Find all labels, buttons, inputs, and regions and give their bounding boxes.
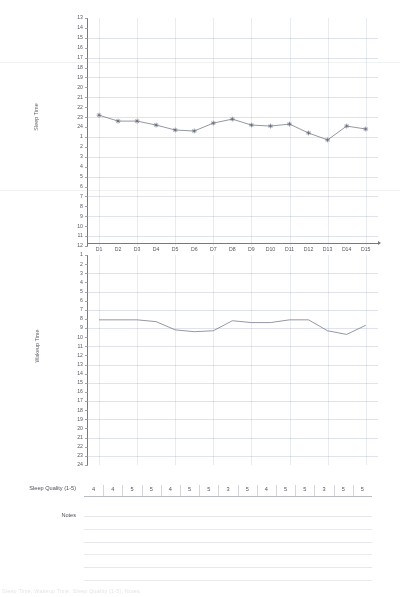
y-tick-mark — [85, 328, 88, 329]
sleep-quality-value[interactable]: 3 — [218, 487, 237, 493]
cell-separator — [180, 485, 181, 496]
sleep-quality-value[interactable]: 5 — [295, 487, 314, 493]
y-tick-mark — [85, 419, 88, 420]
sleep-quality-value[interactable]: 5 — [353, 487, 372, 493]
y-tick-label: 16 — [63, 389, 83, 394]
sleep-quality-value[interactable]: 5 — [276, 487, 295, 493]
y-tick-mark — [85, 456, 88, 457]
sleep-quality-value[interactable]: 3 — [314, 487, 333, 493]
sleep-quality-label: Sleep Quality (1-5) — [8, 485, 76, 491]
y-tick-label: 8 — [63, 316, 83, 321]
y-tick-mark — [85, 365, 88, 366]
note-line[interactable] — [84, 529, 372, 530]
cell-separator — [257, 485, 258, 496]
y-tick-label: 19 — [63, 417, 83, 422]
notes-label: Notes — [8, 512, 76, 518]
y-tick-mark — [85, 410, 88, 411]
cell-separator — [199, 485, 200, 496]
cell-separator — [218, 485, 219, 496]
y-tick-mark — [85, 282, 88, 283]
y-tick-mark — [85, 310, 88, 311]
cell-separator — [122, 485, 123, 496]
y-tick-label: 3 — [63, 271, 83, 276]
y-tick-label: 5 — [63, 289, 83, 294]
sleep-quality-value[interactable]: 5 — [199, 487, 218, 493]
sleep-quality-value[interactable]: 4 — [161, 487, 180, 493]
cell-separator — [276, 485, 277, 496]
cell-separator — [142, 485, 143, 496]
y-tick-label: 12 — [63, 353, 83, 358]
cell-separator — [295, 485, 296, 496]
y-tick-label: 2 — [63, 262, 83, 267]
note-line[interactable] — [84, 567, 372, 568]
y-tick-mark — [85, 355, 88, 356]
y-tick-label: 11 — [63, 344, 83, 349]
y-tick-label: 14 — [63, 371, 83, 376]
cell-separator — [334, 485, 335, 496]
note-line[interactable] — [84, 542, 372, 543]
y-tick-label: 21 — [63, 435, 83, 440]
sleep-quality-value[interactable]: 4 — [103, 487, 122, 493]
y-tick-label: 4 — [63, 280, 83, 285]
y-tick-label: 18 — [63, 408, 83, 413]
wakeup-time-plot-area — [87, 255, 378, 465]
sleep-quality-value[interactable]: 5 — [122, 487, 141, 493]
sleep-quality-value[interactable]: 5 — [180, 487, 199, 493]
y-tick-mark — [85, 383, 88, 384]
sleep-quality-value[interactable]: 4 — [257, 487, 276, 493]
y-tick-mark — [85, 438, 88, 439]
cell-separator — [314, 485, 315, 496]
y-tick-mark — [85, 337, 88, 338]
note-line[interactable] — [84, 554, 372, 555]
y-tick-mark — [85, 401, 88, 402]
y-tick-label: 23 — [63, 453, 83, 458]
sleep-quality-value[interactable]: 5 — [142, 487, 161, 493]
y-tick-label: 13 — [63, 362, 83, 367]
cell-separator — [353, 485, 354, 496]
wakeup-time-axis-label: Wakeup Time — [34, 330, 40, 363]
y-tick-mark — [85, 392, 88, 393]
y-tick-label: 7 — [63, 307, 83, 312]
wakeup-time-series — [87, 255, 378, 465]
y-tick-label: 24 — [63, 462, 83, 467]
y-tick-label: 1 — [63, 252, 83, 257]
y-tick-mark — [85, 319, 88, 320]
wakeup-time-chart: Wakeup Time 1234567891011121314151617181… — [0, 0, 400, 597]
y-tick-mark — [85, 374, 88, 375]
y-tick-mark — [85, 273, 88, 274]
y-tick-label: 9 — [63, 325, 83, 330]
y-tick-mark — [85, 292, 88, 293]
y-tick-label: 17 — [63, 398, 83, 403]
sleep-quality-value[interactable]: 5 — [238, 487, 257, 493]
y-tick-mark — [85, 301, 88, 302]
y-tick-label: 10 — [63, 335, 83, 340]
y-tick-mark — [85, 465, 88, 466]
y-tick-label: 6 — [63, 298, 83, 303]
y-tick-mark — [85, 255, 88, 256]
page-footer-text: Sleep Time, Wakeup Time, Sleep Quality (… — [2, 588, 140, 594]
sleep-quality-value[interactable]: 5 — [334, 487, 353, 493]
y-tick-label: 20 — [63, 426, 83, 431]
cell-separator — [161, 485, 162, 496]
y-tick-mark — [85, 428, 88, 429]
note-line[interactable] — [84, 580, 372, 581]
cell-separator — [238, 485, 239, 496]
y-tick-mark — [85, 447, 88, 448]
y-tick-mark — [85, 264, 88, 265]
wakeup-time-y-axis — [87, 255, 88, 465]
sleep-quality-value[interactable]: 4 — [84, 487, 103, 493]
y-tick-mark — [85, 346, 88, 347]
sleep-diary-page: Sleep Time 13141516171819202122232412345… — [0, 0, 400, 597]
cell-separator — [103, 485, 104, 496]
y-tick-label: 15 — [63, 380, 83, 385]
note-line[interactable] — [84, 516, 372, 517]
y-tick-label: 22 — [63, 444, 83, 449]
